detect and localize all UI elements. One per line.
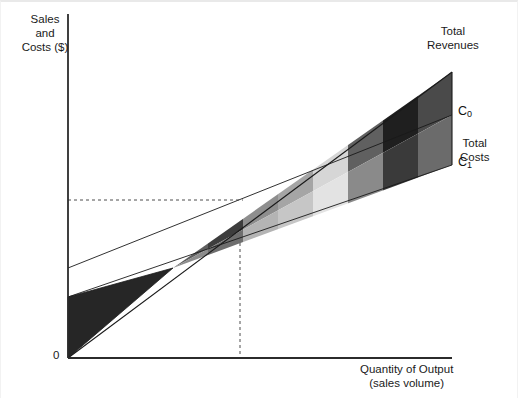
y-axis-label-line1: Sales (14, 12, 76, 26)
y-axis-label-line3: Costs ($) (14, 40, 76, 54)
total-revenues-label: Total Revenues (427, 24, 479, 52)
total-revenue-line (68, 72, 452, 358)
origin-label: 0 (53, 348, 59, 362)
c1-label-letter: C (458, 155, 467, 169)
c1-label: C1 (458, 155, 472, 169)
c1-label-subscript: 1 (467, 160, 472, 170)
chart-canvas (0, 0, 518, 398)
x-axis-label-line1: Quantity of Output (360, 362, 453, 376)
y-axis-label-line2: and (14, 26, 76, 40)
total-revenues-label-line1: Total (427, 24, 479, 38)
total-revenues-label-line2: Revenues (427, 38, 479, 52)
x-axis-label-line2: (sales volume) (360, 376, 453, 390)
break-even-chart-figure: Sales and Costs ($) Quantity of Output (… (0, 0, 518, 398)
c0-label-letter: C (458, 104, 467, 118)
c0-label-subscript: 0 (467, 109, 472, 119)
x-axis-label: Quantity of Output (sales volume) (360, 362, 453, 390)
total-cost-line-c0 (68, 115, 452, 268)
c0-label: C0 (458, 104, 472, 118)
total-cost-line-c1 (68, 165, 452, 297)
total-costs-label-line1: Total (460, 136, 489, 150)
y-axis-label: Sales and Costs ($) (14, 12, 76, 54)
loss-region (68, 268, 173, 358)
